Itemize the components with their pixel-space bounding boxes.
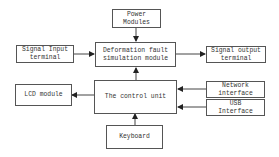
- power-modules-label: Power Modules: [123, 11, 150, 27]
- keyboard-label: Keyboard: [119, 133, 150, 141]
- lcd-module-box: LCD module: [15, 84, 72, 106]
- control-unit-label: The control unit: [105, 93, 166, 101]
- usb-interface-label: USB Interface: [218, 100, 253, 116]
- deformation-module-box: Deformation fault simulation module: [95, 42, 176, 67]
- lcd-module-label: LCD module: [24, 91, 62, 99]
- signal-output-label: Signal output terminal: [211, 47, 261, 63]
- power-modules-box: Power Modules: [112, 9, 161, 28]
- keyboard-box: Keyboard: [106, 125, 163, 149]
- control-unit-box: The control unit: [94, 80, 177, 114]
- usb-interface-box: USB Interface: [206, 99, 265, 116]
- signal-output-box: Signal output terminal: [206, 46, 266, 63]
- deformation-module-label: Deformation fault simulation module: [103, 47, 168, 63]
- signal-input-box: Signal Input terminal: [16, 45, 74, 63]
- network-interface-box: Network interface: [206, 81, 265, 98]
- signal-input-label: Signal Input terminal: [22, 46, 68, 62]
- network-interface-label: Network interface: [218, 82, 253, 98]
